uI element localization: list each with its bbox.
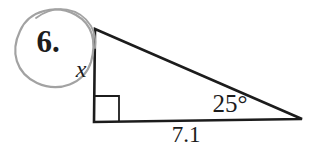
side-x-label: x	[75, 56, 87, 82]
problem-number-label: 6.	[36, 24, 59, 59]
triangle-outline	[94, 29, 302, 122]
base-length-label: 7.1	[172, 122, 201, 147]
worksheet-figure: 6. x 25° 7.1	[0, 0, 313, 161]
angle-measure-label: 25°	[213, 90, 248, 117]
right-triangle-diagram: 6. x 25° 7.1	[0, 0, 313, 161]
right-angle-marker	[94, 96, 119, 121]
